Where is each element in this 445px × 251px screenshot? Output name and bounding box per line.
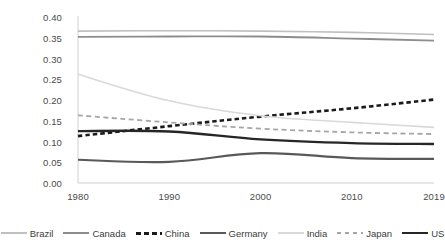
legend-swatch-brazil-icon [1,232,27,234]
chart-legend: BrazilCanadaChinaGermanyIndiaJapanUS [0,224,445,242]
legend-swatch-canada-icon [63,232,89,234]
legend-item-brazil[interactable]: Brazil [1,228,54,239]
legend-label: Canada [92,228,125,239]
legend-item-germany[interactable]: Germany [200,228,268,239]
legend-swatch-japan-icon [337,232,363,234]
legend-item-china[interactable]: China [136,228,190,239]
series-line-us [78,131,434,144]
legend-swatch-china-icon [136,232,162,235]
legend-swatch-india-icon [278,232,304,234]
legend-item-us[interactable]: US [402,228,444,239]
legend-label: US [431,228,444,239]
legend-swatch-us-icon [402,232,428,234]
legend-item-india[interactable]: India [278,228,328,239]
legend-item-canada[interactable]: Canada [63,228,125,239]
legend-label: Brazil [30,228,54,239]
series-line-brazil [78,31,434,35]
legend-label: India [307,228,328,239]
plot-area [0,0,445,251]
legend-item-japan[interactable]: Japan [337,228,392,239]
legend-label: Japan [366,228,392,239]
legend-swatch-germany-icon [200,232,226,234]
line-chart: 0.400.350.300.250.200.150.100.050.00 198… [0,0,445,251]
series-line-canada [78,36,434,40]
legend-label: Germany [229,228,268,239]
legend-label: China [165,228,190,239]
series-lines [78,31,434,162]
series-line-germany [78,153,434,162]
